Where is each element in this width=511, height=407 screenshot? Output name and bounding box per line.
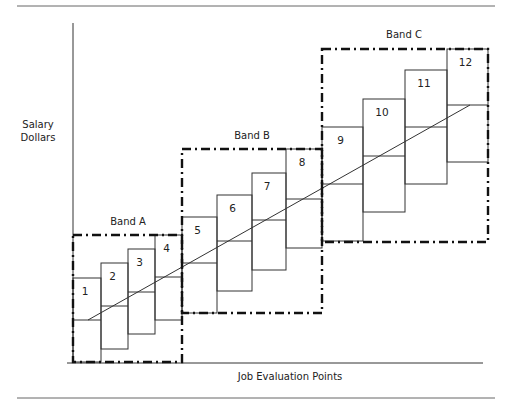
grade-box-9: 9 (322, 127, 363, 241)
y-axis-label-line2: Dollars (21, 132, 56, 143)
grade-label: 2 (109, 270, 116, 282)
grade-label: 1 (82, 285, 89, 297)
grade-label: 10 (375, 106, 388, 118)
grade-label: 9 (337, 134, 344, 146)
grade-box-5: 5 (182, 217, 217, 313)
grade-box-6: 6 (217, 195, 252, 291)
grade-box-1: 1 (73, 278, 101, 362)
trend-line-group (88, 105, 470, 320)
grade-label: 8 (299, 156, 306, 168)
x-axis-label: Job Evaluation Points (237, 371, 343, 382)
grade-label: 5 (194, 224, 201, 236)
band-label: Band C (386, 29, 422, 40)
grade-label: 3 (136, 256, 143, 268)
grade-box-7: 7 (252, 173, 286, 270)
grade-label: 7 (264, 180, 271, 192)
salary-trend-line (88, 105, 470, 320)
grade-box-12: 12 (447, 49, 488, 162)
y-axis-label-line1: Salary (22, 119, 53, 130)
grade-box-2: 2 (101, 263, 128, 349)
grade-boxes: 123456789101112 (73, 49, 488, 362)
grade-label: 12 (459, 56, 472, 68)
grade-box-10: 10 (363, 99, 405, 212)
salary-band-diagram: Salary Dollars Job Evaluation Points 123… (0, 0, 511, 407)
grade-label: 6 (229, 202, 236, 214)
grade-box-4: 4 (155, 235, 182, 320)
grade-label: 4 (163, 242, 170, 254)
band-label: Band B (234, 130, 270, 141)
grade-label: 11 (417, 77, 430, 89)
band-label: Band A (110, 216, 146, 227)
grade-box-11: 11 (405, 70, 447, 184)
grade-box-3: 3 (128, 249, 155, 334)
